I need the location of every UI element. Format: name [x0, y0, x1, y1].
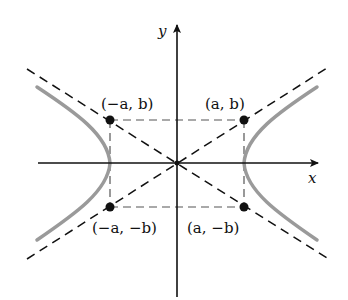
label-a-neg-b: (a, −b) [187, 219, 239, 237]
label-neg-a-neg-b: (−a, −b) [92, 219, 157, 237]
point-neg-a-neg-b [106, 203, 115, 212]
label-neg-a-b: (−a, b) [101, 95, 153, 113]
x-axis-label: x [308, 169, 317, 187]
origin-point [175, 161, 180, 166]
point-a-neg-b [240, 203, 249, 212]
point-neg-a-b [106, 116, 115, 125]
label-a-b: (a, b) [205, 95, 245, 113]
hyperbola-diagram: y x (−a, b) (a, b) (−a, −b) (a, −b) [0, 0, 348, 300]
y-axis-label: y [157, 22, 167, 40]
point-a-b [240, 116, 249, 125]
